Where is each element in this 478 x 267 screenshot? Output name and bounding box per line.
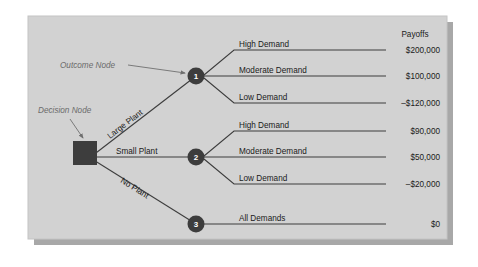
decision-tree-diagram: 1 2 3 Outcome Node Decision Node Large P… <box>0 0 478 267</box>
payoff-value-2-high: $90,000 <box>410 127 440 136</box>
payoffs-column-header: Payoffs <box>401 30 428 39</box>
decision-node-annotation: Decision Node <box>38 106 92 115</box>
branch-label-small-plant: Small Plant <box>116 147 158 156</box>
decision-node-square[interactable] <box>73 141 97 165</box>
payoff-value-1-high: $200,000 <box>406 46 441 55</box>
demand-label-1-moderate: Moderate Demand <box>239 66 307 75</box>
decision-tree-canvas: 1 2 3 Outcome Node Decision Node Large P… <box>0 0 478 267</box>
demand-label-1-high: High Demand <box>239 40 290 49</box>
outcome-node-annotation: Outcome Node <box>60 61 116 70</box>
payoff-value-2-moderate: $50,000 <box>410 153 440 162</box>
outcome-node-2-label: 2 <box>194 153 199 162</box>
demand-label-2-low: Low Demand <box>239 174 288 183</box>
demand-label-2-moderate: Moderate Demand <box>239 147 307 156</box>
demand-label-3-all: All Demands <box>239 214 285 223</box>
payoff-value-1-low: –$120,000 <box>401 99 440 108</box>
demand-label-1-low: Low Demand <box>239 93 288 102</box>
outcome-node-3-label: 3 <box>194 220 199 229</box>
outcome-node-1-label: 1 <box>194 72 199 81</box>
demand-label-2-high: High Demand <box>239 121 290 130</box>
payoff-value-1-moderate: $100,000 <box>406 72 441 81</box>
payoff-value-2-low: –$20,000 <box>406 180 441 189</box>
payoff-value-3-all: $0 <box>431 220 441 229</box>
